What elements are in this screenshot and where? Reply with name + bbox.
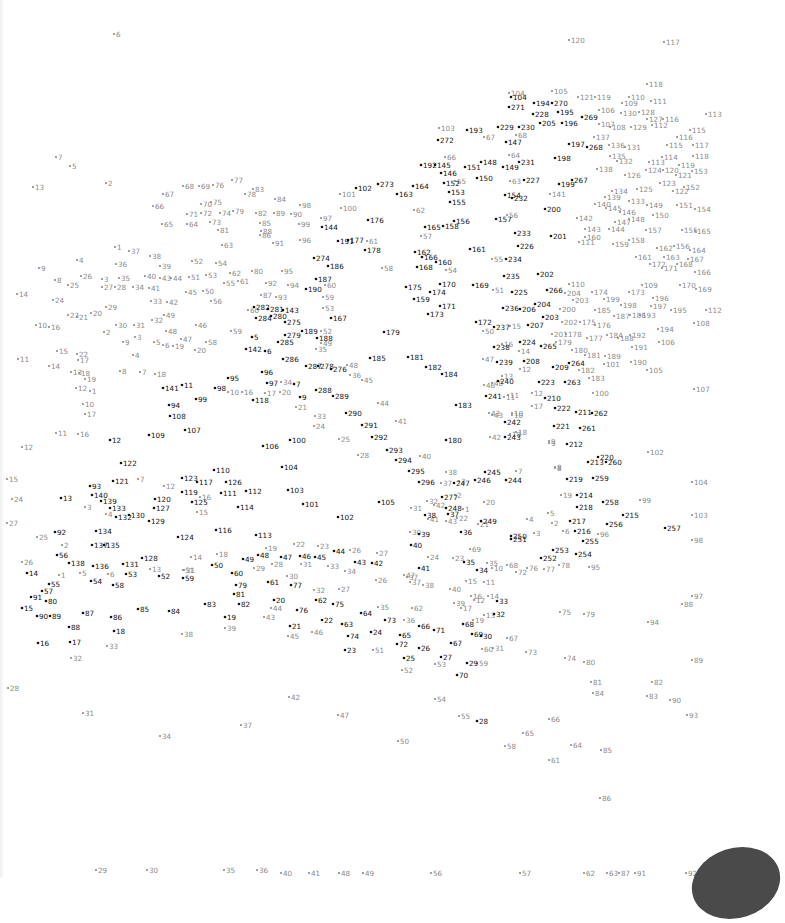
dot-point (337, 714, 339, 716)
dot-number-label: 178 (367, 246, 381, 255)
dot-number-label: 53 (128, 570, 137, 579)
dot-point (603, 298, 605, 300)
dot-number-label: 70 (459, 671, 469, 680)
dot-number-label: 49 (245, 555, 255, 564)
dot-point (89, 485, 92, 488)
dot-number-label: 121 (678, 171, 692, 180)
dot-point (340, 207, 342, 209)
dot-number-label: 19 (563, 491, 573, 500)
dot-number-label: 52 (161, 572, 170, 581)
dot-number-label: 118 (255, 396, 269, 405)
dot-point (305, 288, 308, 291)
dot-point (505, 479, 508, 482)
dot-point (537, 273, 540, 276)
dot-point (586, 146, 589, 149)
dot-number-label: 67 (453, 639, 462, 648)
dot-point (82, 403, 84, 405)
dot-number-label: 228 (535, 110, 549, 119)
dot-point (443, 182, 446, 185)
dot-point (215, 262, 217, 264)
dot-point (61, 544, 63, 546)
dot-point (676, 136, 678, 138)
dot-number-label: 166 (697, 268, 711, 277)
dot-point (687, 258, 689, 260)
dot-number-label: 179 (558, 338, 572, 347)
dot-number-label: 107 (696, 385, 710, 394)
dot-point (191, 260, 193, 262)
dot-number-label: 131 (125, 560, 139, 569)
dot-number-label: 25 (70, 281, 79, 290)
dot-point (275, 296, 277, 298)
dot-number-label: 76 (299, 606, 309, 615)
dot-point (122, 563, 125, 566)
dot-number-label: 5 (82, 569, 87, 578)
dot-point (262, 445, 265, 448)
dot-number-label: 10 (494, 564, 504, 573)
dot-point (629, 334, 631, 336)
dot-number-label: 172 (478, 318, 492, 327)
dot-point (480, 520, 483, 523)
dot-number-label: 51 (191, 273, 200, 282)
dot-point (572, 299, 574, 301)
dot-number-label: 27 (341, 585, 350, 594)
dot-point (315, 348, 317, 350)
dot-point (311, 631, 313, 633)
dot-number-label: 27 (9, 519, 18, 528)
dot-number-label: 158 (445, 222, 459, 231)
dot-number-label: 36 (259, 866, 269, 875)
dot-point (441, 496, 444, 499)
dot-number-label: 206 (522, 305, 536, 314)
dot-number-label: 63 (344, 620, 353, 629)
dot-point (177, 536, 180, 539)
dot-number-label: 239 (499, 358, 513, 367)
page-edge-shadow (0, 0, 4, 878)
dot-point (603, 363, 605, 365)
dot-point (694, 271, 696, 273)
dot-point (184, 429, 187, 432)
dot-number-label: 118 (649, 80, 663, 89)
dot-point (405, 286, 408, 289)
dot-number-label: 30 (483, 632, 493, 641)
dot-point (511, 291, 514, 294)
dot-point (211, 564, 214, 567)
dot-point (60, 497, 63, 500)
dot-number-label: 34 (479, 566, 489, 575)
dot-number-label: 71 (436, 626, 445, 635)
dot-number-label: 87 (263, 291, 272, 300)
dot-number-label: 135 (106, 541, 120, 550)
dot-number-label: 63 (609, 869, 618, 878)
dot-number-label: 20 (197, 346, 207, 355)
dot-number-label: 47 (485, 355, 494, 364)
dot-point (463, 561, 466, 564)
dot-point (413, 298, 416, 301)
dot-point (6, 478, 8, 480)
dot-number-label: 173 (430, 310, 444, 319)
dot-number-label: 67 (486, 133, 495, 142)
dot-number-label: 83 (649, 692, 658, 701)
dot-point (395, 459, 398, 462)
dot-number-label: 44 (336, 547, 346, 556)
dot-number-label: 296 (421, 478, 435, 487)
dot-number-label: 233 (517, 229, 531, 238)
dot-point (557, 111, 560, 114)
dot-point (510, 535, 513, 538)
dot-point (290, 213, 292, 215)
dot-point (508, 106, 511, 109)
dot-number-label: 27 (379, 549, 388, 558)
dot-number-label: 161 (638, 253, 652, 262)
dot-point (153, 341, 155, 343)
dot-point (68, 626, 71, 629)
dot-number-label: 205 (542, 119, 556, 128)
dot-point (439, 283, 442, 286)
dot-point (658, 341, 660, 343)
dot-number-label: 12 (534, 389, 543, 398)
dot-number-label: 133 (631, 197, 645, 206)
dot-number-label: 199 (561, 180, 575, 189)
dot-point (575, 411, 578, 414)
dot-number-label: 49 (166, 311, 176, 320)
dot-point (284, 334, 287, 337)
dot-point (620, 304, 622, 306)
dot-point (406, 576, 408, 578)
dot-point (38, 267, 40, 269)
